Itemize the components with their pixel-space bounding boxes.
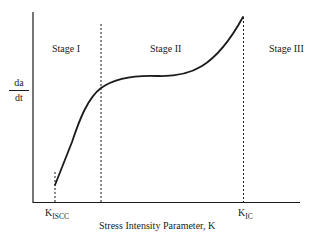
- stage-3-label: Stage III: [269, 44, 304, 54]
- crack-growth-diagram: [0, 0, 318, 242]
- y-axis-label: da dt: [9, 78, 29, 103]
- crack-growth-rate-curve: [55, 17, 243, 185]
- stage-2-label: Stage II: [150, 44, 181, 54]
- y-axis-label-denominator: dt: [9, 91, 29, 103]
- x-axis-label: Stress Intensity Parameter, K: [99, 221, 215, 231]
- kiscc-marker-label: KISCC: [45, 208, 69, 218]
- kic-marker-label: KIC: [238, 208, 253, 218]
- kiscc-subscript: ISCC: [52, 212, 69, 221]
- kic-subscript: IC: [245, 212, 253, 221]
- y-axis-label-numerator: da: [9, 78, 29, 91]
- stage-1-label: Stage I: [52, 44, 80, 54]
